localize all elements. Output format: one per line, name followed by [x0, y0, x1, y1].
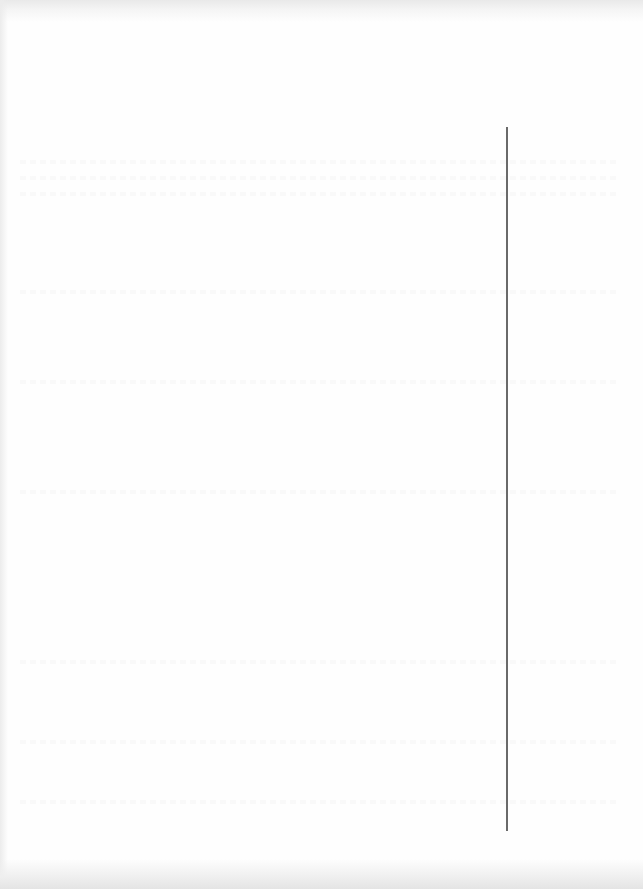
page-left-edge-shadow	[0, 0, 8, 889]
scanned-page	[0, 0, 643, 889]
page-bottom-edge-shadow	[0, 859, 643, 889]
page-top-edge-shadow	[0, 0, 643, 22]
bleed-through-text-line	[20, 490, 620, 494]
bleed-through-text-line	[20, 740, 620, 744]
bleed-through-text-line	[20, 160, 620, 164]
vertical-rule-line	[506, 127, 508, 831]
bleed-through-text-line	[20, 380, 620, 384]
bleed-through-text-line	[20, 176, 620, 180]
bleed-through-text-line	[20, 290, 620, 294]
bleed-through-text-line	[20, 660, 620, 664]
bleed-through-text-line	[20, 800, 620, 804]
bleed-through-text-line	[20, 192, 620, 196]
